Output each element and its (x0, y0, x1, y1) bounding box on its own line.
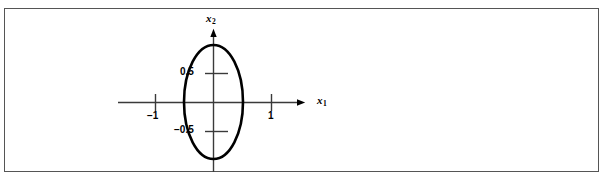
y-axis-label-base: x (206, 12, 212, 24)
x-axis-label-base: x (317, 94, 323, 106)
y-axis-label-subscript: 2 (212, 17, 216, 26)
x-axis-label: x1 (317, 95, 326, 106)
x-axis-group (118, 94, 298, 111)
figure-root: x2 x1 0.5 −0.5 −1 1 (0, 0, 606, 178)
x-tick-label-1: 1 (268, 111, 274, 121)
y-axis-group (205, 36, 228, 172)
y-tick-label-0.5: 0.5 (180, 67, 194, 77)
plot-canvas (0, 0, 606, 178)
y-axis-label: x2 (206, 13, 215, 24)
y-tick-label-neg0.5: −0.5 (174, 125, 194, 135)
x-tick-label-neg1: −1 (147, 111, 158, 121)
x-axis-label-subscript: 1 (323, 99, 327, 108)
